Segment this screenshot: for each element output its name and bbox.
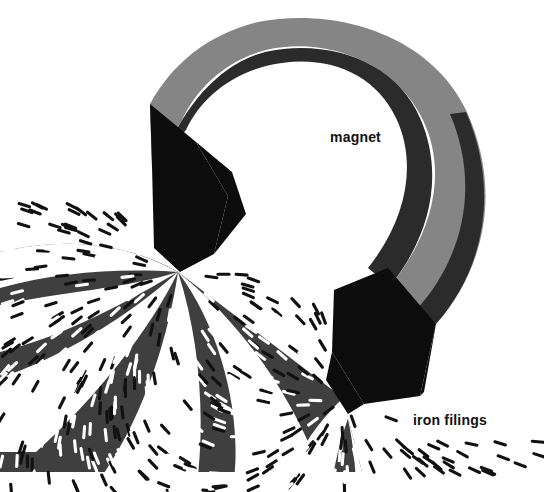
iron-filing [255,417,266,418]
iron-filing [34,471,35,482]
iron-filing [339,450,340,461]
iron-filing [71,411,73,422]
iron-filing [68,423,70,434]
iron-filing [158,334,160,345]
iron-filing [349,485,350,492]
iron-filing [169,310,171,321]
magnet-field-illustration: magnet iron filings [0,0,544,492]
iron-filing [38,251,49,252]
iron-filing [107,412,108,423]
iron-filing [347,467,348,478]
iron-filing [114,427,115,438]
iron-filing [78,250,89,252]
iron-filing [105,430,106,441]
iron-filing [57,275,68,276]
iron-filing [110,409,111,420]
iron-filing [154,373,156,384]
iron-filing [264,437,275,439]
iron-filing [268,418,279,420]
iron-filing [236,274,247,275]
iron-filing [65,268,76,269]
iron-filing [90,424,91,435]
iron-filing [60,444,61,455]
iron-filing [81,449,83,460]
iron-filing [29,238,40,240]
iron-filing [125,380,126,391]
iron-filing [206,276,217,278]
iron-filing [84,280,95,281]
iron-filing [342,454,343,465]
iron-filing [281,413,292,415]
iron-filing [17,456,18,467]
iron-filing [210,473,221,474]
iron-filing [122,407,123,418]
iron-filing [466,443,477,445]
iron-filing [267,422,278,423]
iron-filing [84,427,85,438]
iron-filing [122,276,133,277]
iron-filing [14,260,25,261]
iron-filing [98,266,109,267]
iron-filing [45,249,56,251]
magnet-label: magnet [330,129,381,145]
iron-filing [64,416,66,427]
iron-filing [106,287,117,289]
iron-filing [63,258,74,259]
iron-filing [77,284,88,286]
iron-filing [88,457,90,468]
iron-filing [185,338,187,349]
iron-filing [111,372,113,383]
iron-filing [10,255,21,256]
iron-filing [84,254,95,256]
iron-filing [11,484,12,492]
iron-filing [231,436,242,437]
iron-filing [42,435,44,446]
iron-filing [341,438,342,449]
iron-filing [75,441,76,452]
iron-filings-label: iron filings [413,412,487,428]
iron-filing [44,247,55,248]
iron-filing [96,257,107,259]
iron-filing [27,269,38,270]
illustration-canvas: magnet iron filings [0,0,544,492]
iron-filing [3,250,14,251]
iron-filing [66,282,77,284]
iron-filing [33,259,44,260]
iron-filing [134,263,145,265]
iron-filing [532,441,543,442]
iron-filing [232,414,243,416]
iron-filing [48,472,49,483]
iron-filing [99,388,100,399]
iron-filing [100,403,101,414]
iron-filing [345,441,346,452]
